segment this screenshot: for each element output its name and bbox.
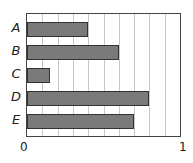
bar-e — [27, 114, 134, 129]
category-label: B — [10, 43, 22, 58]
bar-a — [27, 22, 88, 37]
category-label: D — [10, 89, 22, 104]
category-label: A — [10, 20, 22, 35]
bar-d — [27, 91, 149, 106]
category-label: E — [10, 112, 22, 127]
category-label: C — [10, 66, 22, 81]
x-tick-0: 0 — [20, 140, 28, 154]
grid-line — [149, 14, 150, 136]
bar-b — [27, 45, 119, 60]
x-tick-1: 1 — [179, 140, 187, 154]
grid-line — [165, 14, 166, 136]
grid-line — [134, 14, 135, 136]
bar-c — [27, 68, 50, 83]
plot-area — [26, 13, 181, 137]
